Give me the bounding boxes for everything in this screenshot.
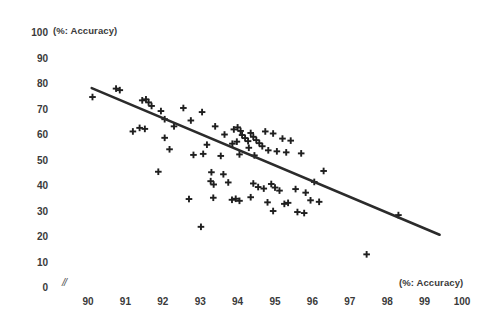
data-point [200, 151, 207, 158]
scatter-chart: (%: Accuracy) (%: Accuracy) // 010203040… [0, 0, 489, 329]
data-point [281, 201, 288, 208]
data-point [294, 209, 301, 216]
data-point [158, 108, 165, 115]
data-point [268, 181, 275, 188]
data-point [221, 131, 228, 138]
data-point [279, 135, 286, 142]
data-point [229, 196, 236, 203]
data-point [89, 94, 96, 101]
data-point [302, 189, 309, 196]
data-point [166, 146, 173, 153]
data-point [250, 180, 257, 187]
data-point [292, 186, 299, 193]
data-point [265, 147, 272, 154]
data-point [246, 144, 253, 151]
data-point [180, 105, 187, 112]
data-point [136, 125, 143, 132]
data-point [247, 194, 254, 201]
data-point [320, 168, 327, 175]
data-point [307, 197, 314, 204]
data-point [188, 117, 195, 124]
data-point [186, 196, 193, 203]
data-point [161, 135, 168, 142]
data-point [190, 152, 197, 159]
data-point [142, 126, 149, 133]
data-point [212, 123, 219, 130]
data-point [301, 210, 308, 217]
data-point [217, 153, 224, 160]
data-point [285, 200, 292, 207]
data-point [264, 199, 271, 206]
trend-line [92, 88, 440, 235]
data-point [199, 109, 206, 116]
data-point [287, 137, 294, 144]
data-point [363, 251, 370, 258]
data-point [262, 128, 269, 135]
data-point [208, 169, 215, 176]
data-point [225, 179, 232, 186]
data-point [270, 208, 277, 215]
data-point [210, 194, 217, 201]
data-point [298, 150, 305, 157]
data-point [283, 149, 290, 156]
data-point [270, 130, 277, 137]
data-points [89, 85, 402, 257]
data-point [130, 128, 137, 135]
data-point [204, 141, 211, 148]
data-point [155, 168, 162, 175]
data-point [274, 148, 281, 155]
data-point [139, 97, 146, 104]
data-point [220, 171, 227, 178]
plot-area [0, 0, 489, 329]
data-point [198, 224, 205, 231]
data-point [316, 199, 323, 206]
